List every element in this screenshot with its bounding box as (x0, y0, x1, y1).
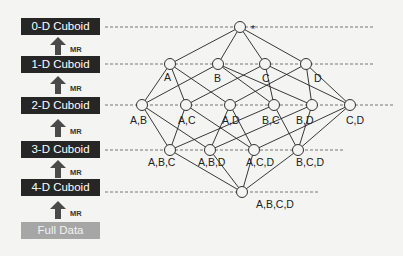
cuboid-node (307, 100, 318, 111)
lattice-edge (306, 64, 350, 105)
cuboid-node (235, 22, 246, 33)
lattice-edge (170, 64, 186, 105)
lattice-edge (230, 64, 306, 105)
cuboid-node (269, 100, 280, 111)
cuboid-node (137, 100, 148, 111)
cuboid-node-label: C (262, 72, 270, 84)
cuboid-node (205, 145, 216, 156)
cuboid-node (293, 145, 304, 156)
cuboid-node (301, 59, 312, 70)
cuboid-node (225, 100, 236, 111)
cuboid-node-label: A,B,D (198, 156, 226, 168)
cuboid-node (249, 145, 260, 156)
cuboid-node (213, 59, 224, 70)
lattice-edge (265, 64, 350, 105)
cuboid-node (260, 59, 271, 70)
lattice-edge (186, 64, 265, 105)
lattice-edge (298, 105, 350, 150)
cuboid-node (237, 187, 248, 198)
cuboid-node-label: B,D (296, 114, 314, 126)
lattice-edge (170, 105, 186, 150)
cuboid-lattice: *ABCDA,BA,CA,DB,CB,DC,DA,B,CA,B,DA,C,DB,… (0, 0, 403, 256)
lattice-edge (210, 105, 312, 150)
lattice-edge (170, 64, 230, 105)
cuboid-node-label: A,C,D (246, 156, 274, 168)
lattice-edge (210, 105, 230, 150)
lattice-edge (142, 105, 170, 150)
lattice-nodes: *ABCDA,BA,CA,DB,CB,DC,DA,B,CA,B,DA,C,DB,… (130, 22, 365, 211)
lattice-edge (170, 105, 274, 150)
cuboid-node-label: C,D (346, 114, 365, 126)
cuboid-node-label: B (214, 72, 221, 84)
lattice-edge (298, 105, 312, 150)
cuboid-node-label: * (251, 23, 255, 35)
lattice-edge (230, 105, 254, 150)
cuboid-node-label: A,B,C,D (256, 198, 294, 210)
cuboid-node (165, 145, 176, 156)
cuboid-node-label: A,C (178, 114, 196, 126)
cuboid-node-label: B,C,D (296, 156, 324, 168)
cuboid-node-label: A,D (222, 114, 240, 126)
cuboid-node (181, 100, 192, 111)
cuboid-node (345, 100, 356, 111)
cuboid-node (165, 59, 176, 70)
cuboid-node-label: A (164, 71, 171, 83)
lattice-edge (254, 105, 350, 150)
lattice-edge (240, 27, 306, 64)
cuboid-node-label: A,B (130, 114, 147, 126)
cuboid-node-label: B,C (262, 114, 280, 126)
cuboid-node-label: D (314, 72, 322, 84)
cuboid-node-label: A,B,C (148, 156, 176, 168)
lattice-edge (274, 105, 298, 150)
lattice-edge (142, 105, 210, 150)
lattice-edge (142, 64, 218, 105)
